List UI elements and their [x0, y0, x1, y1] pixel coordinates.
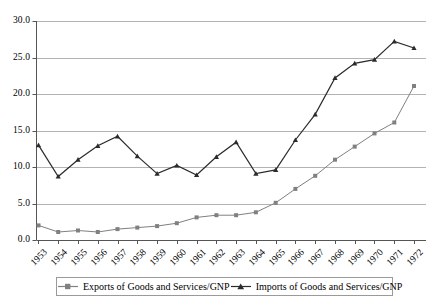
data-point: [234, 140, 239, 145]
legend-item-imports: Imports of Goods and Services/GNP: [230, 282, 403, 292]
data-point: [373, 131, 377, 135]
data-point: [293, 187, 297, 191]
data-point: [135, 226, 139, 230]
grid-lines: [37, 22, 427, 205]
legend-label-imports: Imports of Goods and Services/GNP: [256, 282, 403, 292]
data-point: [76, 229, 80, 233]
x-axis-ticks: [33, 22, 415, 245]
data-point: [155, 224, 159, 228]
y-axis-tick-label: 0.0: [0, 234, 30, 244]
series-line-exports: [39, 86, 415, 232]
chart-container: 30.025.020.015.010.05.00.0 1953195419551…: [0, 0, 447, 303]
data-point: [56, 230, 60, 234]
y-axis-tick-label: 30.0: [0, 15, 30, 25]
data-point: [116, 227, 120, 231]
data-point: [274, 201, 278, 205]
series-line-imports: [39, 41, 415, 176]
data-point: [234, 213, 238, 217]
axis-lines: [37, 21, 427, 241]
data-point: [392, 39, 397, 44]
data-point: [115, 134, 120, 139]
data-point: [214, 213, 218, 217]
data-point: [333, 158, 337, 162]
y-axis-tick-label: 15.0: [0, 125, 30, 135]
legend-marker-imports-icon: [230, 282, 252, 291]
y-axis-tick-label: 25.0: [0, 52, 30, 62]
chart-legend: Exports of Goods and Services/GNP Import…: [56, 277, 393, 296]
y-axis-tick-label: 10.0: [0, 161, 30, 171]
data-point: [412, 84, 416, 88]
y-axis-tick-label: 5.0: [0, 198, 30, 208]
legend-label-exports: Exports of Goods and Services/GNP: [83, 282, 230, 292]
legend-marker-exports-icon: [57, 282, 79, 291]
data-point: [175, 221, 179, 225]
data-point: [313, 112, 318, 117]
data-point: [174, 163, 179, 168]
data-point: [96, 230, 100, 234]
data-point: [313, 174, 317, 178]
y-axis-tick-label: 20.0: [0, 88, 30, 98]
legend-item-exports: Exports of Goods and Services/GNP: [57, 282, 230, 292]
series-paths: [39, 41, 415, 232]
data-point: [353, 145, 357, 149]
data-point: [392, 121, 396, 125]
data-point: [254, 210, 258, 214]
data-point: [195, 215, 199, 219]
data-point: [37, 223, 41, 227]
